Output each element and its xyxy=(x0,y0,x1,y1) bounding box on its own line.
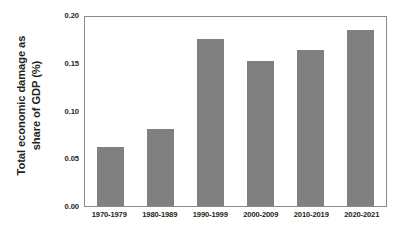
bar xyxy=(197,39,224,206)
bar-chart: Total economic damage as share of GDP (%… xyxy=(0,0,405,238)
x-axis-tick-label: 2020-2021 xyxy=(337,211,388,219)
bar xyxy=(347,30,374,206)
y-axis-title-line-2: share of GDP (%) xyxy=(29,36,44,176)
bar xyxy=(147,129,174,206)
bar xyxy=(247,61,274,206)
x-axis-tick-labels: 1970-19791980-19891990-19992000-20092010… xyxy=(84,211,387,231)
y-axis-title-line-1: Total economic damage as xyxy=(14,36,29,176)
bar-slot xyxy=(286,17,336,206)
x-axis-tick-label: 1970-1979 xyxy=(84,211,135,219)
y-axis-title: Total economic damage as share of GDP (%… xyxy=(0,0,58,212)
x-axis-tick-label: 2010-2019 xyxy=(286,211,337,219)
bar-slot xyxy=(185,17,235,206)
x-axis-tick-label: 2000-2009 xyxy=(236,211,287,219)
bar-slot xyxy=(85,17,135,206)
bar xyxy=(297,50,324,206)
bar-slot xyxy=(336,17,386,206)
y-axis-tick-label: 0.15 xyxy=(65,60,79,68)
bar xyxy=(97,147,124,206)
y-axis-title-text: Total economic damage as share of GDP (%… xyxy=(14,36,43,176)
bar-series xyxy=(85,17,386,206)
y-axis-tick-labels: 0.000.050.100.150.20 xyxy=(54,0,82,238)
y-axis-tick-label: 0.00 xyxy=(65,203,79,211)
bar-slot xyxy=(236,17,286,206)
y-axis-tick-label: 0.05 xyxy=(65,155,79,163)
plot-area xyxy=(84,16,387,207)
y-axis-tick-label: 0.20 xyxy=(65,12,79,20)
y-axis-tick-label: 0.10 xyxy=(65,108,79,116)
x-axis-tick-label: 1990-1999 xyxy=(185,211,236,219)
bar-slot xyxy=(135,17,185,206)
x-axis-tick-label: 1980-1989 xyxy=(135,211,186,219)
